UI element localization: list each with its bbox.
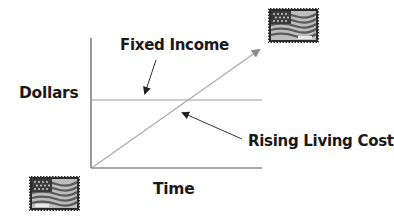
flag-stamp-icon (29, 176, 80, 211)
rising-cost-line (93, 50, 259, 167)
fixed-income-label: Fixed Income (120, 36, 229, 54)
x-axis-label: Time (153, 180, 194, 198)
fixed-income-arrow (145, 60, 156, 93)
y-axis-label: Dollars (19, 84, 78, 102)
rising-living-cost-label: Rising Living Cost (248, 132, 394, 150)
rising-cost-arrow (183, 113, 242, 139)
flag-stamp-icon (268, 8, 319, 43)
